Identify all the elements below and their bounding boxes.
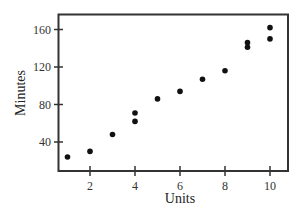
data-point: [267, 25, 273, 31]
data-point: [87, 149, 93, 155]
data-point: [132, 110, 138, 116]
data-point: [155, 96, 161, 102]
data-point: [200, 76, 206, 82]
x-tick-label: 10: [264, 179, 276, 193]
x-axis-title: Units: [165, 191, 195, 206]
x-tick-label: 2: [87, 179, 93, 193]
x-tick-label: 4: [132, 179, 138, 193]
data-point: [222, 68, 228, 74]
data-point: [65, 154, 71, 160]
data-point: [245, 40, 251, 46]
y-axis-title: Minutes: [13, 70, 28, 116]
data-points: [65, 25, 273, 160]
data-point: [132, 119, 138, 125]
y-tick-label: 40: [39, 135, 51, 149]
plot-frame: [59, 15, 289, 172]
scatter-chart: 246810 4080120160 Units Minutes: [0, 0, 302, 213]
y-tick-label: 80: [39, 98, 51, 112]
x-tick-label: 8: [222, 179, 228, 193]
data-point: [177, 89, 183, 95]
y-tick-label: 160: [33, 23, 51, 37]
data-point: [110, 132, 116, 138]
y-tick-label: 120: [33, 60, 51, 74]
data-point: [267, 36, 273, 42]
